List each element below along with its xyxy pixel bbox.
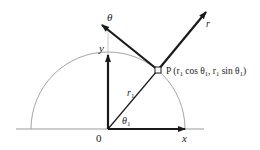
r-hat-arrow: [158, 12, 206, 70]
x-axis-label: x: [181, 132, 187, 144]
polar-coordinates-diagram: θ r y x 0 r1 θ1 P (r1 cos θ1, r1 sin θ1): [0, 0, 260, 150]
point-p-coordinates: P (r1 cos θ1, r1 sin θ1): [166, 66, 246, 77]
radius-label: r1: [127, 87, 135, 100]
origin-label: 0: [96, 132, 102, 144]
radius-line: [108, 71, 157, 129]
r-hat-label: r: [206, 18, 210, 29]
angle-label: θ1: [122, 115, 131, 128]
point-p-marker: [155, 67, 161, 73]
diagram-svg: θ r y x 0 r1 θ1 P (r1 cos θ1, r1 sin θ1): [0, 0, 260, 150]
theta-hat-arrow: [102, 25, 158, 70]
y-axis-label: y: [98, 42, 104, 54]
theta-hat-label: θ: [107, 11, 113, 23]
